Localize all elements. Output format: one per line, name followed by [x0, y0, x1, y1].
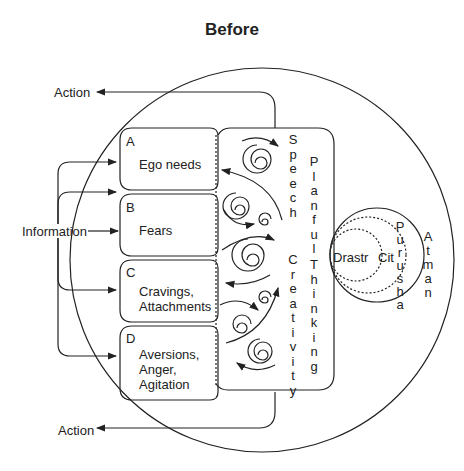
speech-label: Speech — [287, 133, 299, 220]
creativity-label: Creativity — [287, 253, 299, 398]
box-a-letter: A — [126, 134, 135, 149]
purusha-label: Purusha — [394, 220, 406, 311]
action-top-label: Action — [54, 85, 90, 100]
information-label: Information — [22, 224, 87, 239]
cit-label: Cit — [378, 250, 394, 265]
box-a-text: Ego needs — [139, 157, 201, 172]
box-c-text: Cravings, Attachments — [139, 284, 211, 314]
box-c-letter: C — [126, 265, 135, 280]
box-d-letter: D — [126, 331, 135, 346]
planful-label: Planful — [308, 155, 320, 257]
drastr-label: Drastr — [333, 250, 368, 265]
box-d-text: Aversions, Anger, Agitation — [139, 347, 199, 392]
thinking-label: Thinking — [308, 258, 320, 374]
box-b-text: Fears — [139, 223, 172, 238]
atman-label: Atman — [422, 230, 434, 300]
box-b-letter: B — [126, 200, 135, 215]
action-bottom-label: Action — [58, 423, 94, 438]
